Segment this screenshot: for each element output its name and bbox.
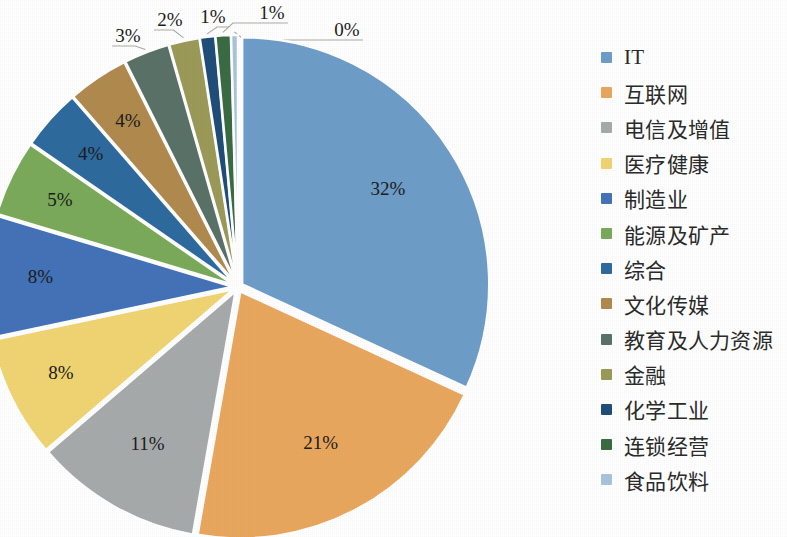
legend-item-label: 能源及矿产 xyxy=(624,219,731,249)
legend-item-label: 制造业 xyxy=(624,183,688,213)
legend-item-label: 化学工业 xyxy=(624,394,709,424)
chart-legend: IT互联网电信及增值医疗健康制造业能源及矿产综合文化传媒教育及人力资源金融化学工… xyxy=(601,40,787,497)
legend-item[interactable]: 金融 xyxy=(601,357,787,392)
legend-item-label: 教育及人力资源 xyxy=(624,324,773,354)
legend-item-label: 金融 xyxy=(624,359,667,389)
legend-item[interactable]: IT xyxy=(601,40,787,75)
legend-item[interactable]: 医疗健康 xyxy=(601,146,787,181)
pie-slice-percent-label: 11% xyxy=(130,433,164,454)
pie-slice-percent-label: 4% xyxy=(115,110,141,131)
legend-color-swatch xyxy=(601,439,612,450)
legend-color-swatch xyxy=(601,474,612,485)
legend-item-label: 食品饮料 xyxy=(624,465,709,495)
legend-color-swatch xyxy=(601,122,612,133)
legend-item-label: 连锁经营 xyxy=(624,430,709,460)
legend-color-swatch xyxy=(601,52,612,63)
legend-item[interactable]: 互联网 xyxy=(601,75,787,110)
pie-outer-percent-label: 1% xyxy=(259,2,285,23)
pie-outer-percent-label: 1% xyxy=(200,6,226,27)
pie-slices-group xyxy=(0,35,489,537)
legend-item[interactable]: 教育及人力资源 xyxy=(601,322,787,357)
leader-line xyxy=(154,30,184,38)
legend-item-label: 医疗健康 xyxy=(624,148,709,178)
pie-outer-percent-label: 2% xyxy=(157,9,183,30)
legend-item[interactable]: 电信及增值 xyxy=(601,110,787,145)
legend-item-label: 电信及增值 xyxy=(624,113,731,143)
legend-item-label: 综合 xyxy=(624,254,667,284)
legend-item-label: 互联网 xyxy=(624,78,688,108)
pie-slice-percent-label: 8% xyxy=(28,266,54,287)
leader-line xyxy=(112,46,145,49)
legend-item[interactable]: 食品饮料 xyxy=(601,462,787,497)
pie-outer-percent-label: 3% xyxy=(115,25,141,46)
legend-item[interactable]: 文化传媒 xyxy=(601,286,787,321)
legend-color-swatch xyxy=(601,263,612,274)
legend-color-swatch xyxy=(601,193,612,204)
pie-slice-percent-label: 21% xyxy=(303,432,338,453)
legend-color-swatch xyxy=(601,334,612,345)
pie-slice-percent-label: 32% xyxy=(370,178,405,199)
legend-color-swatch xyxy=(601,404,612,415)
pie-chart-figure: 32%21%11%8%8%5%4%4% 3%2%1%1%0% IT互联网电信及增… xyxy=(0,0,787,537)
pie-slice-percent-label: 5% xyxy=(47,189,73,210)
legend-color-swatch xyxy=(601,158,612,169)
pie-slice-percent-label: 4% xyxy=(78,143,104,164)
legend-item[interactable]: 化学工业 xyxy=(601,392,787,427)
legend-item[interactable]: 制造业 xyxy=(601,181,787,216)
legend-color-swatch xyxy=(601,298,612,309)
legend-item-label: 文化传媒 xyxy=(624,289,709,319)
legend-color-swatch xyxy=(601,87,612,98)
legend-color-swatch xyxy=(601,369,612,380)
pie-slice-percent-label: 8% xyxy=(48,362,74,383)
legend-item[interactable]: 能源及矿产 xyxy=(601,216,787,251)
legend-item[interactable]: 综合 xyxy=(601,251,787,286)
legend-item-label: IT xyxy=(624,45,644,70)
legend-item[interactable]: 连锁经营 xyxy=(601,427,787,462)
legend-color-swatch xyxy=(601,228,612,239)
pie-outer-percent-label: 0% xyxy=(334,19,360,40)
leader-line xyxy=(223,23,288,32)
